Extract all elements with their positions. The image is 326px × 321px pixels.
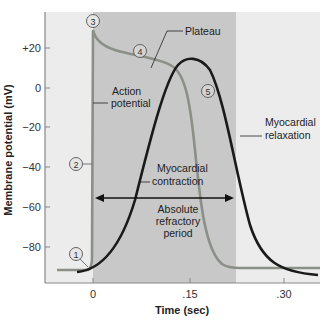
svg-text:1: 1 [73, 250, 78, 260]
y-tick-label: −60 [22, 201, 41, 213]
refractory-label-1: Absolute [158, 203, 199, 215]
refractory-shade [93, 12, 236, 283]
x-tick-label: .30 [276, 288, 291, 300]
marker-5: 5 [202, 85, 215, 98]
contraction-label-2: contraction [152, 175, 204, 187]
relaxation-label-1: Myocardial [265, 116, 316, 128]
svg-text:2: 2 [73, 160, 78, 170]
x-tick-label: .15 [182, 288, 197, 300]
y-tick-label: −80 [22, 241, 41, 253]
action-potential-label-2: potential [111, 97, 151, 109]
x-tick-label: 0 [90, 288, 96, 300]
svg-text:5: 5 [205, 87, 210, 97]
svg-text:3: 3 [90, 17, 95, 27]
svg-text:4: 4 [137, 47, 142, 57]
contraction-label-1: Myocardial [157, 162, 208, 174]
marker-4: 4 [134, 45, 147, 58]
action-potential-label-1: Action [112, 85, 141, 97]
plateau-label: Plateau [185, 25, 221, 37]
refractory-label-3: period [163, 227, 192, 239]
y-axis-title: Membrane potential (mV) [2, 84, 14, 216]
y-tick-label: −40 [22, 161, 41, 173]
action-potential-chart: +20 0 −20 −40 −60 −80 0 .15 .30 Time (se… [0, 0, 326, 321]
relaxation-label-2: relaxation [265, 129, 311, 141]
y-tick-label: 0 [35, 82, 41, 94]
refractory-label-2: refractory [156, 215, 201, 227]
marker-3: 3 [87, 15, 100, 28]
x-axis-title: Time (sec) [155, 304, 210, 316]
y-tick-label: −20 [22, 121, 41, 133]
y-tick-label: +20 [22, 42, 41, 54]
